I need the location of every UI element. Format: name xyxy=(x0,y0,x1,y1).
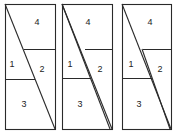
region-label: 1 xyxy=(128,59,133,69)
region-label: 2 xyxy=(97,64,102,74)
panel-left: 4123 xyxy=(5,4,56,130)
region-label: 2 xyxy=(157,64,162,74)
region-label: 4 xyxy=(85,17,90,27)
region-label: 3 xyxy=(21,99,26,109)
diagonal-cut-line xyxy=(142,49,170,129)
region-label: 1 xyxy=(9,59,14,69)
panel-middle: 4123 xyxy=(62,4,113,130)
diagram-canvas: 412341234123 xyxy=(0,0,179,139)
dissection-diagram: 412341234123 xyxy=(0,0,179,139)
region-label: 4 xyxy=(147,17,152,27)
region-label: 3 xyxy=(136,99,141,109)
panel-right: 4123 xyxy=(122,4,172,130)
region-label: 2 xyxy=(39,64,44,74)
region-label: 4 xyxy=(34,17,39,27)
region-label: 3 xyxy=(77,99,82,109)
region-label: 1 xyxy=(67,59,72,69)
